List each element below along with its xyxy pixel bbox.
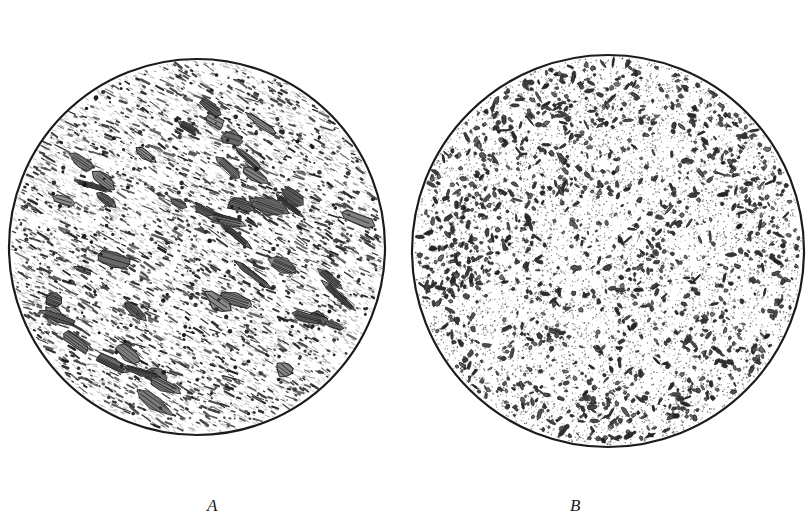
plate-canvas [0,0,810,526]
micrograph-plate: A B [0,0,810,526]
panel-a-caption: A [207,496,218,516]
panel-b-caption: B [570,496,581,516]
